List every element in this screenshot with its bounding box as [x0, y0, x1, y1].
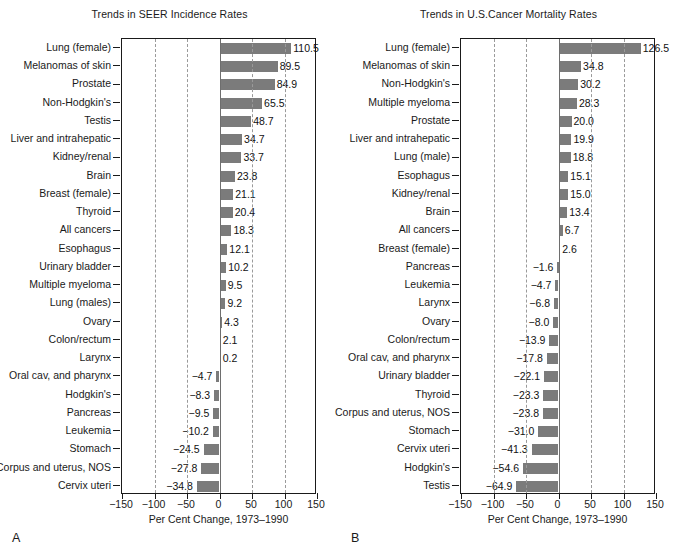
bar-value-label: 10.2 [228, 258, 248, 277]
category-label-row: Liver and intrahepatic [339, 129, 458, 147]
category-label-row: Prostate [0, 74, 119, 92]
category-label: All cancers [399, 220, 450, 238]
category-label: Stomach [409, 421, 450, 439]
bar-row: 34.7 [122, 130, 315, 148]
category-label: Prostate [411, 111, 450, 129]
category-label-row: Larynx [339, 293, 458, 311]
category-label: Non-Hodgkin's [381, 74, 450, 92]
bar [523, 463, 558, 474]
bar-value-label: −4.7 [192, 367, 213, 386]
y-tick-mark [113, 321, 120, 322]
bar-value-label: 2.1 [223, 331, 238, 350]
category-label-row: Brain [339, 202, 458, 220]
x-tick-label: 0 [555, 496, 561, 512]
category-label-row: Brain [0, 166, 119, 184]
bar-row: 15.0 [461, 185, 654, 203]
category-label: Leukemia [404, 275, 450, 293]
bar-value-label: 23.8 [237, 167, 257, 186]
y-tick-mark [452, 175, 459, 176]
bar-row: −54.6 [461, 459, 654, 477]
category-label-row: Multiple myeloma [339, 93, 458, 111]
bar [532, 444, 559, 455]
y-tick-mark [452, 448, 459, 449]
bar [559, 61, 582, 72]
category-label: Multiple myeloma [29, 275, 111, 293]
category-label: Non-Hodgkin's [42, 93, 111, 111]
bar-row: 19.9 [461, 130, 654, 148]
bar-value-label: −17.8 [516, 349, 543, 368]
bar-value-label: 84.9 [277, 75, 297, 94]
bar-value-label: 34.7 [244, 130, 264, 149]
category-label: Testis [423, 476, 450, 494]
bar-value-label: −13.9 [519, 331, 546, 350]
gridline [187, 39, 188, 493]
category-label: Hodgkin's [404, 458, 450, 476]
bar-value-label: −9.5 [189, 404, 210, 423]
bar [220, 61, 278, 72]
bar [538, 426, 558, 437]
y-tick-mark [452, 157, 459, 158]
bar [220, 98, 263, 109]
gridline [494, 39, 495, 493]
y-tick-mark [113, 175, 120, 176]
y-tick-mark [113, 211, 120, 212]
category-label: Hodgkin's [65, 385, 111, 403]
category-label: Lung (female) [385, 38, 450, 56]
bar-row: −1.6 [461, 258, 654, 276]
bar [213, 426, 220, 437]
category-label: Larynx [418, 293, 450, 311]
category-label-row: Prostate [339, 111, 458, 129]
bar-row: 12.1 [122, 240, 315, 258]
chart-title-a: Trends in SEER Incidence Rates [0, 8, 339, 20]
bar [559, 189, 569, 200]
y-tick-mark [452, 248, 459, 249]
category-label-row: Lung (female) [0, 38, 119, 56]
y-tick-mark [452, 302, 459, 303]
bar-value-label: 2.6 [562, 240, 577, 259]
category-label: Corpus and uterus, NOS [335, 403, 450, 421]
y-tick-mark [452, 357, 459, 358]
x-tick-label: −100 [142, 496, 166, 512]
category-labels-a: Lung (female)Melanomas of skinProstateNo… [0, 38, 119, 494]
bar-row: 126.5 [461, 39, 654, 57]
x-tick-label: −50 [516, 496, 534, 512]
bar-row: 30.2 [461, 75, 654, 93]
bar-row: 10.2 [122, 258, 315, 276]
y-tick-mark [452, 430, 459, 431]
y-tick-mark [113, 430, 120, 431]
category-label-row: Corpus and uterus, NOS [0, 458, 119, 476]
bar-row: 20.4 [122, 203, 315, 221]
bar-row: 89.5 [122, 57, 315, 75]
bar [220, 207, 233, 218]
bar-value-label: −1.6 [533, 258, 554, 277]
category-label-row: Ovary [339, 312, 458, 330]
category-label-row: Thyroid [0, 202, 119, 220]
category-label: Pancreas [406, 257, 450, 275]
y-tick-mark [113, 47, 120, 48]
gridline [526, 39, 527, 493]
bar-row: 20.0 [461, 112, 654, 130]
bar [559, 171, 569, 182]
bar-row: −34.8 [122, 477, 315, 495]
bar-row: 9.2 [122, 294, 315, 312]
bar-row: 65.5 [122, 94, 315, 112]
bar [220, 152, 242, 163]
category-label-row: Non-Hodgkin's [339, 74, 458, 92]
category-label-row: Lung (male) [339, 147, 458, 165]
category-label-row: Lung (female) [339, 38, 458, 56]
bar-value-label: 15.1 [570, 167, 590, 186]
y-tick-mark [113, 138, 120, 139]
category-label-row: Esophagus [339, 166, 458, 184]
bar-row: 18.8 [461, 148, 654, 166]
category-label: Stomach [70, 439, 111, 457]
bar-value-label: 4.3 [224, 313, 239, 332]
gridline [624, 39, 625, 493]
bar [544, 371, 558, 382]
bar [220, 116, 252, 127]
figure-two-panel-bar-charts: Trends in SEER Incidence Rates Lung (fem… [0, 0, 678, 554]
bar [204, 444, 220, 455]
x-tick-label: −150 [109, 496, 133, 512]
bar-row: −27.8 [122, 459, 315, 477]
y-tick-mark [113, 394, 120, 395]
y-tick-mark [452, 193, 459, 194]
